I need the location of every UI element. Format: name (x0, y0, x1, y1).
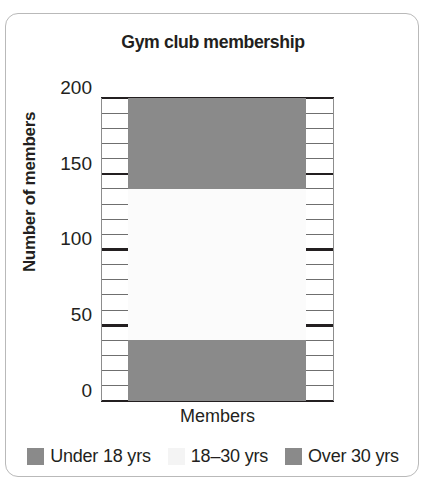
bar-segment[interactable] (128, 340, 306, 401)
y-axis-line-left (101, 98, 102, 401)
chart-card: Gym club membership Number of members 05… (5, 13, 419, 477)
bar-segment[interactable] (128, 98, 306, 189)
legend-item[interactable]: 18–30 yrs (168, 446, 268, 467)
y-axis-title: Number of members (20, 92, 40, 292)
legend-label: Over 30 yrs (308, 446, 399, 467)
y-tick-label: 0 (81, 380, 92, 402)
chart-legend: Under 18 yrs18–30 yrsOver 30 yrs (6, 446, 420, 467)
legend-item[interactable]: Over 30 yrs (285, 446, 399, 467)
legend-label: 18–30 yrs (191, 446, 268, 467)
y-tick-label: 150 (60, 153, 92, 175)
bar-segment[interactable] (128, 189, 306, 341)
y-tick-label: 50 (71, 304, 92, 326)
y-tick-label: 100 (60, 228, 92, 250)
legend-item[interactable]: Under 18 yrs (27, 446, 151, 467)
y-axis-line-right (333, 98, 334, 401)
y-tick-label: 200 (60, 77, 92, 99)
legend-swatch-icon (27, 448, 44, 465)
legend-swatch-icon (168, 448, 185, 465)
legend-label: Under 18 yrs (50, 446, 151, 467)
legend-swatch-icon (285, 448, 302, 465)
x-axis-label: Members (101, 406, 334, 427)
chart-title: Gym club membership (20, 31, 405, 53)
plot-area: 050100150200 (101, 98, 334, 401)
